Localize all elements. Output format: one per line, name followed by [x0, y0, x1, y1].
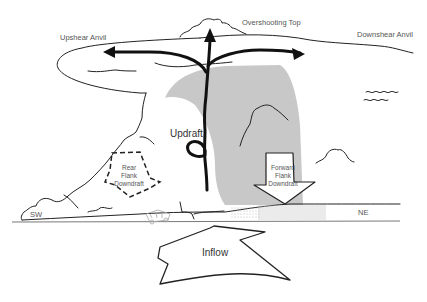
anvil-wave-left	[88, 70, 136, 72]
rain-shaft-dots	[230, 206, 260, 219]
updraft-arrowhead	[204, 28, 216, 42]
right-cumulus	[316, 149, 354, 163]
cloud-detail-1	[140, 137, 154, 144]
label-ne: NE	[358, 208, 368, 217]
cloud-detail-2	[64, 195, 78, 208]
supercell-diagram: Upshear Anvil Overshooting Top Downshear…	[0, 0, 427, 302]
label-rear-flank-1: Rear	[122, 164, 137, 171]
label-forward-flank-3: Downdraft	[268, 180, 298, 187]
label-sw: SW	[30, 210, 43, 219]
updraft-loop	[188, 141, 206, 156]
label-rear-flank-3: Downdraft	[114, 180, 144, 187]
divergence-arrowhead-left	[103, 46, 115, 58]
label-inflow: Inflow	[202, 247, 229, 258]
overshooting-top	[180, 19, 246, 37]
divergence-arrow-left	[108, 52, 206, 72]
label-updraft: Updraft	[170, 128, 203, 139]
wave-line-2	[364, 99, 388, 100]
ground-line	[12, 221, 400, 222]
left-cloud-tower	[21, 93, 146, 220]
label-downshear-anvil: Downshear Anvil	[357, 30, 413, 39]
label-forward-flank-1: Forward	[271, 164, 295, 171]
cloud-detail-3	[88, 207, 112, 212]
label-upshear-anvil: Upshear Anvil	[60, 33, 107, 42]
rain-shaft-lines	[258, 205, 326, 220]
anvil-wave-right	[155, 62, 232, 67]
gust-front	[180, 202, 224, 219]
divergence-arrow-right	[208, 50, 300, 66]
label-forward-flank-2: Flank	[275, 172, 292, 179]
label-rear-flank-2: Flank	[121, 172, 138, 179]
wave-line-1	[366, 91, 398, 92]
label-overshooting-top: Overshooting Top	[242, 18, 301, 27]
divergence-arrowhead-right	[292, 48, 305, 60]
